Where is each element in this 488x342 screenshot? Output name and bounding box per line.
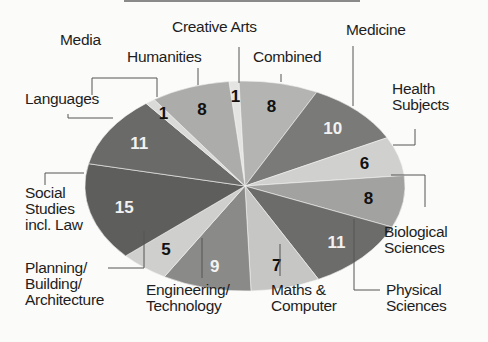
slice-value-label: 8	[267, 97, 276, 116]
slice-value-label: 8	[364, 189, 373, 208]
leader-languages	[68, 114, 113, 118]
slice-value-label: 11	[328, 233, 346, 252]
label-biological-sciences: Biological Sciences	[384, 224, 447, 256]
leader-health	[393, 129, 415, 145]
slice-value-label: 1	[159, 104, 168, 123]
label-languages: Languages	[25, 91, 99, 107]
pie-slices	[85, 81, 405, 291]
slice-value-label: 1	[231, 87, 240, 106]
label-medicine: Medicine	[346, 22, 406, 38]
label-creative-arts: Creative Arts	[172, 19, 257, 35]
label-combined: Combined	[253, 49, 321, 65]
slice-value-label: 10	[323, 119, 342, 138]
slice-value-label: 15	[115, 198, 134, 217]
slice-value-label: 8	[197, 100, 206, 119]
label-health-subjects: Health Subjects	[392, 81, 449, 113]
label-social-studies: Social Studies incl. Law	[25, 185, 83, 233]
slice-value-label: 9	[210, 257, 219, 276]
label-humanities: Humanities	[127, 49, 202, 65]
label-engineering: Engineering/ Technology	[146, 282, 229, 314]
slice-value-label: 5	[161, 240, 170, 259]
leader-media	[92, 78, 157, 97]
label-media: Media	[60, 32, 101, 48]
label-physical-sciences: Physical Sciences	[386, 282, 447, 314]
slice-value-label: 11	[130, 134, 148, 153]
label-planning: Planning/ Building/ Architecture	[25, 260, 104, 308]
slice-value-label: 6	[360, 154, 369, 173]
label-maths-computer: Maths & Computer	[271, 282, 337, 314]
